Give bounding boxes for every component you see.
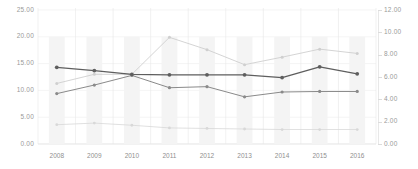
series-point: [281, 56, 284, 59]
x-axis-label-2016: 2016: [338, 153, 376, 160]
chart-svg: [38, 10, 376, 144]
series-point: [318, 90, 321, 93]
background-bar: [124, 37, 140, 144]
right-axis-tick-label: 8.00: [384, 51, 397, 58]
series-point: [205, 85, 208, 88]
series-point: [281, 128, 284, 131]
series-point: [243, 95, 246, 98]
series-point: [130, 72, 134, 76]
x-axis-label-2012: 2012: [188, 153, 226, 160]
left-axis-tick-label: 5.00: [2, 114, 34, 121]
series-point: [280, 76, 284, 80]
series-point: [93, 73, 96, 76]
right-axis-tick: [378, 10, 382, 11]
right-axis-tick: [378, 144, 382, 145]
series-point: [55, 65, 59, 69]
left-axis-tick-label: 15.00: [2, 60, 34, 67]
x-axis-label-2009: 2009: [76, 153, 114, 160]
right-axis-tick-label: 12.00: [384, 7, 401, 14]
series-point: [92, 69, 96, 73]
right-axis-tick-label: 0.00: [384, 141, 397, 148]
right-axis-tick-label: 6.00: [384, 74, 397, 81]
series-point: [55, 82, 58, 85]
right-axis-tick: [378, 99, 382, 100]
series-point: [93, 122, 96, 125]
series-point: [168, 127, 171, 130]
right-axis-tick: [378, 55, 382, 56]
plot-area: [38, 10, 376, 144]
left-axis-tick-label: 20.00: [2, 33, 34, 40]
series-point: [318, 48, 321, 51]
chart-container: 25.0020.0015.0010.005.000.0012.0010.008.…: [0, 0, 418, 169]
series-point: [356, 52, 359, 55]
series-point: [168, 73, 172, 77]
left-axis-tick-label: 0.00: [2, 141, 34, 148]
series-point: [168, 86, 171, 89]
series-point: [55, 123, 58, 126]
right-axis-tick-label: 4.00: [384, 96, 397, 103]
series-point: [168, 36, 171, 39]
series-point: [206, 48, 209, 51]
right-axis-tick: [378, 32, 382, 33]
series-point: [356, 90, 359, 93]
series-point: [243, 73, 247, 77]
series-point: [130, 124, 133, 127]
series-point: [318, 65, 322, 69]
x-axis-label-2011: 2011: [151, 153, 189, 160]
background-bar: [86, 37, 102, 144]
series-point: [205, 73, 209, 77]
series-point: [206, 127, 209, 130]
background-bar: [49, 37, 65, 144]
right-axis-tick-label: 2.00: [384, 118, 397, 125]
series-point: [281, 90, 284, 93]
right-axis-tick-label: 10.00: [384, 29, 401, 36]
series-point: [243, 128, 246, 131]
left-axis-tick-label: 10.00: [2, 87, 34, 94]
left-axis-tick-label: 25.00: [2, 7, 34, 14]
x-axis-label-2015: 2015: [301, 153, 339, 160]
series-point: [93, 83, 96, 86]
x-axis-label-2014: 2014: [263, 153, 301, 160]
series-point: [318, 128, 321, 131]
background-bar: [274, 37, 290, 144]
x-axis-label-2013: 2013: [226, 153, 264, 160]
x-axis-label-2010: 2010: [113, 153, 151, 160]
series-point: [356, 128, 359, 131]
right-axis-tick: [378, 122, 382, 123]
right-axis-tick: [378, 77, 382, 78]
series-point: [55, 92, 58, 95]
series-point: [243, 63, 246, 66]
x-axis-label-2008: 2008: [38, 153, 76, 160]
series-point: [355, 72, 359, 76]
